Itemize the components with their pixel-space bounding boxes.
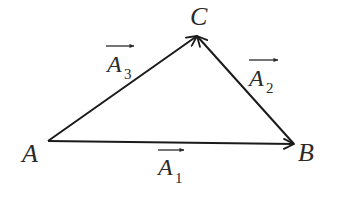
vector-a1-label: A (156, 154, 173, 180)
vector-a2-arrow (197, 36, 294, 144)
vector-a1-subscript: 1 (175, 170, 183, 186)
vector-a3-label: A (105, 51, 122, 77)
vector-a2-subscript: 2 (266, 80, 274, 96)
vector-a2-label: A (247, 65, 264, 91)
vertex-label-c: C (190, 2, 208, 31)
vertex-label-b: B (298, 138, 314, 167)
vector-a3-arrow (48, 36, 197, 141)
vertex-label-a: A (20, 139, 38, 168)
vector-a3-subscript: 3 (124, 66, 132, 82)
vector-triangle-diagram: A B C A 3 A 2 A 1 (0, 0, 337, 201)
vector-a1-arrow (48, 141, 294, 144)
